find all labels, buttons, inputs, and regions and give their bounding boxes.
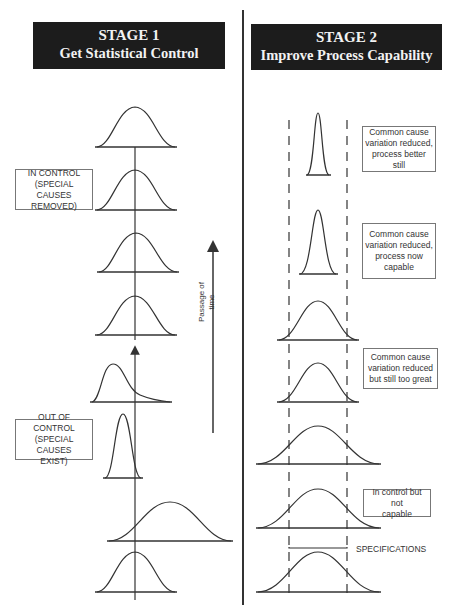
label-line: OUT OF CONTROL (18, 412, 90, 434)
stage2-curve-7-wide (256, 552, 381, 592)
stage1-curve-6-narrow (103, 414, 143, 478)
label-line: capable (366, 509, 428, 520)
in-control-label: IN CONTROL (SPECIAL CAUSES REMOVED) (15, 169, 93, 210)
label-line: time (207, 272, 217, 332)
not-capable-label: In control but not capable (363, 489, 431, 517)
label-line: IN CONTROL (18, 168, 90, 179)
label-line: process better still (365, 149, 433, 171)
now-capable-label: Common cause variation reduced, process … (362, 223, 436, 279)
better-still-label: Common cause variation reduced, process … (362, 126, 436, 172)
label-line: variation reduced, (365, 138, 433, 149)
label-line: capable (365, 262, 433, 273)
still-too-great-label: Common cause variation reduced but still… (363, 348, 438, 389)
stage2-curve-2-narrow (299, 210, 338, 274)
label-line: EXIST) (18, 456, 90, 467)
label-line: variation reduced, (365, 240, 433, 251)
specifications-bracket (289, 547, 347, 548)
label-line: In control but not (366, 487, 428, 509)
specifications-label: SPECIFICATIONS (356, 544, 426, 554)
label-line: Passage of (197, 272, 207, 332)
label-line: but still too great (368, 374, 433, 385)
passage-of-time-label: Passage of time (197, 272, 219, 332)
label-line: REMOVED) (18, 201, 90, 212)
label-line: (SPECIAL CAUSES (18, 179, 90, 201)
label-line: Common cause (365, 229, 433, 240)
stage1-curve-1 (95, 107, 177, 147)
stage1-curve-7-wide (107, 502, 233, 541)
label-line: Common cause (365, 127, 433, 138)
stage1-curve-4 (95, 296, 177, 335)
label-line: Common cause (368, 352, 433, 363)
label-line: (SPECIAL CAUSES (18, 434, 90, 456)
stage1-curve-8 (95, 552, 177, 592)
out-of-control-label: OUT OF CONTROL (SPECIAL CAUSES EXIST) (15, 419, 93, 460)
label-line: process now (365, 251, 433, 262)
label-line: variation reduced (368, 363, 433, 374)
stage2-curve-5-wide (256, 426, 381, 464)
stage1-curve-2 (95, 170, 177, 210)
stage2-curve-1-very-narrow (306, 113, 331, 175)
stage1-curve-3 (97, 233, 179, 272)
stage1-curve-5-skewed (90, 364, 172, 402)
